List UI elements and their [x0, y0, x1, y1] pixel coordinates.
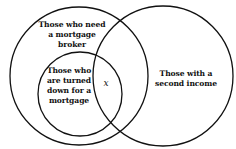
label-turned-down: Those who are turned down for a mortgage [46, 66, 92, 106]
label-x: x [101, 78, 111, 88]
label-second-income: Those with a second income [150, 69, 222, 89]
label-mortgage-broker: Those who need a mortgage broker [38, 20, 106, 50]
venn-diagram: Those who need a mortgage broker Those w… [0, 0, 236, 149]
